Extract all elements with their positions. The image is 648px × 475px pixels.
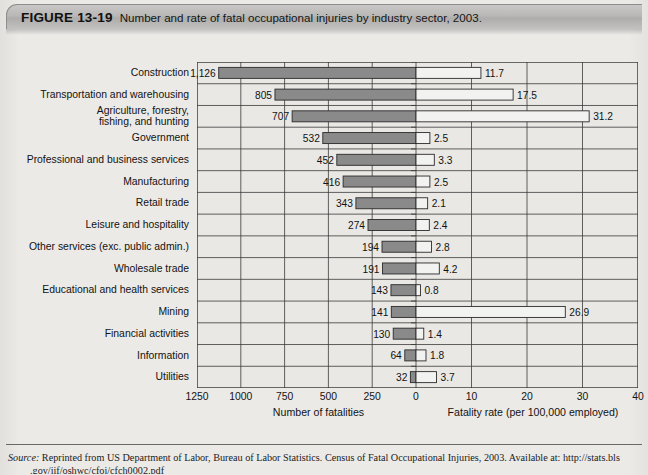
value-label-fatalities: 707 xyxy=(272,111,289,122)
value-label-rate: 11.7 xyxy=(485,67,504,78)
axis-tick-fatalities: 1250 xyxy=(185,391,208,402)
axis-tick-fatalities: 250 xyxy=(364,391,381,402)
category-label-line: Government xyxy=(132,132,189,144)
category-label: Leisure and hospitality xyxy=(86,219,189,231)
category-label-line: fishing, and hunting xyxy=(97,116,189,128)
category-label: Professional and business services xyxy=(27,154,189,166)
axis-tick-rate: 40 xyxy=(632,391,644,402)
value-label-fatalities: 32 xyxy=(396,372,407,383)
category-label-line: Utilities xyxy=(156,371,190,383)
figure-banner: FIGURE 13-19 Number and rate of fatal oc… xyxy=(6,4,642,29)
category-label: Transportation and warehousing xyxy=(40,89,189,101)
value-label-rate: 2.8 xyxy=(436,241,450,252)
axis-tick-fatalities: 500 xyxy=(320,391,337,402)
category-label-line: Information xyxy=(137,350,189,362)
value-label-fatalities: 452 xyxy=(317,154,334,165)
category-label: Information xyxy=(137,350,189,362)
value-label-fatalities: 1,126 xyxy=(190,67,216,78)
value-label-rate: 2.5 xyxy=(434,133,448,144)
axis-tick-rate: 10 xyxy=(466,391,478,402)
category-label-line: Construction xyxy=(131,67,189,79)
value-label-fatalities: 191 xyxy=(363,263,380,274)
category-label: Agriculture, forestry,fishing, and hunti… xyxy=(97,105,189,128)
category-label-line: Other services (exc. public admin.) xyxy=(29,241,189,253)
axis-title-rate: Fatality rate (per 100,000 employed) xyxy=(448,406,619,418)
value-label-rate: 3.7 xyxy=(441,372,455,383)
banner-shadow xyxy=(6,29,642,35)
axis-tick-fatalities: 1000 xyxy=(229,391,252,402)
value-label-rate: 2.4 xyxy=(433,220,447,231)
category-label-line: Educational and health services xyxy=(42,284,189,296)
axis-tick-rate: 20 xyxy=(521,391,533,402)
axis-tick-rate: 30 xyxy=(577,391,589,402)
category-label-line: Wholesale trade xyxy=(114,263,189,275)
value-label-rate: 3.3 xyxy=(438,154,452,165)
value-label-rate: 4.2 xyxy=(443,263,457,274)
value-label-rate: 2.5 xyxy=(434,176,448,187)
category-label: Retail trade xyxy=(136,197,189,209)
category-label: Wholesale trade xyxy=(114,263,189,275)
category-label: Utilities xyxy=(156,371,190,383)
source-divider xyxy=(6,444,642,445)
category-label: Construction xyxy=(131,67,189,79)
category-label-line: Leisure and hospitality xyxy=(86,219,189,231)
value-label-fatalities: 343 xyxy=(336,198,353,209)
category-label: Manufacturing xyxy=(123,176,189,188)
category-label: Financial activities xyxy=(105,328,189,340)
source-note: Source: Reprinted from US Department of … xyxy=(8,452,640,464)
value-label-rate: 31.2 xyxy=(593,111,613,122)
source-label: Source: xyxy=(8,452,39,463)
category-label-line: Financial activities xyxy=(105,328,189,340)
axis-title-fatalities: Number of fatalities xyxy=(273,406,364,418)
value-label-fatalities: 532 xyxy=(303,133,320,144)
category-label: Other services (exc. public admin.) xyxy=(29,241,189,253)
figure-caption: Number and rate of fatal occupational in… xyxy=(120,11,482,24)
category-label: Mining xyxy=(158,306,189,318)
category-label-line: Manufacturing xyxy=(123,176,189,188)
category-label-line: Agriculture, forestry, xyxy=(97,105,189,117)
category-label: Government xyxy=(132,132,189,144)
source-note-line2: .gov/iif/oshwc/cfoi/cfch0002.pdf xyxy=(30,465,640,474)
value-label-fatalities: 274 xyxy=(348,220,365,231)
value-label-fatalities: 141 xyxy=(371,306,388,317)
value-label-fatalities: 416 xyxy=(323,176,340,187)
value-label-rate: 1.8 xyxy=(430,350,444,361)
value-label-rate: 17.5 xyxy=(517,89,537,100)
category-label: Educational and health services xyxy=(42,284,189,296)
value-label-rate: 0.8 xyxy=(424,285,438,296)
value-label-fatalities: 805 xyxy=(255,89,272,100)
category-label-line: Retail trade xyxy=(136,197,189,209)
axis-tick-rate: 0 xyxy=(413,391,419,402)
axis-tick-fatalities: 750 xyxy=(276,391,293,402)
category-label-line: Mining xyxy=(158,306,189,318)
source-text: Reprinted from US Department of Labor, B… xyxy=(39,452,620,463)
value-label-fatalities: 194 xyxy=(362,241,379,252)
value-label-fatalities: 130 xyxy=(373,328,390,339)
chart-plot-area xyxy=(197,62,638,388)
value-label-rate: 26.9 xyxy=(569,306,589,317)
value-label-fatalities: 64 xyxy=(390,350,401,361)
value-label-rate: 1.4 xyxy=(428,328,442,339)
figure-number: FIGURE 13-19 xyxy=(21,10,113,25)
value-label-fatalities: 143 xyxy=(371,285,388,296)
category-label-column: ConstructionTransportation and warehousi… xyxy=(0,62,193,388)
value-label-rate: 2.1 xyxy=(432,198,446,209)
category-label-line: Professional and business services xyxy=(27,154,189,166)
category-label-line: Transportation and warehousing xyxy=(40,89,189,101)
